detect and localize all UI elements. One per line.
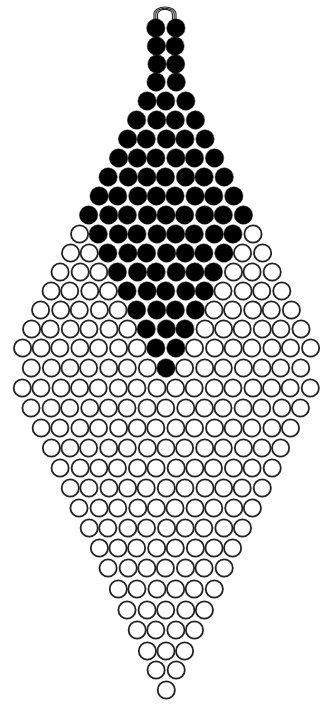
filled-bead — [166, 301, 184, 319]
open-bead — [167, 580, 184, 597]
filled-bead — [185, 149, 203, 167]
open-bead — [147, 621, 164, 638]
open-bead — [100, 282, 117, 299]
filled-bead — [147, 37, 165, 55]
open-bead — [302, 379, 319, 396]
open-bead — [168, 661, 185, 678]
open-bead — [80, 479, 97, 496]
open-bead — [61, 399, 78, 416]
open-bead — [129, 499, 146, 516]
open-bead — [264, 263, 281, 280]
open-bead — [282, 379, 299, 396]
open-bead — [148, 580, 165, 597]
filled-bead — [157, 282, 175, 300]
filled-bead — [175, 206, 193, 224]
open-bead — [292, 359, 309, 376]
open-bead — [128, 580, 145, 597]
open-bead — [43, 282, 60, 299]
open-bead — [234, 320, 251, 337]
open-bead — [234, 519, 251, 536]
open-bead — [23, 320, 40, 337]
open-bead — [43, 399, 60, 416]
open-bead — [215, 439, 232, 456]
open-bead — [206, 580, 223, 597]
open-bead — [109, 459, 126, 476]
open-bead — [148, 539, 165, 556]
filled-bead — [109, 187, 127, 205]
filled-bead — [225, 187, 243, 205]
open-bead — [100, 559, 117, 576]
open-bead — [196, 601, 213, 618]
filled-bead — [195, 282, 213, 300]
open-bead — [254, 320, 271, 337]
filled-bead — [205, 187, 223, 205]
open-bead — [51, 419, 68, 436]
bead-grid — [14, 19, 320, 699]
filled-bead — [138, 282, 156, 300]
filled-bead — [128, 225, 146, 243]
open-bead — [51, 339, 68, 356]
open-bead — [205, 499, 222, 516]
open-bead — [158, 681, 175, 698]
open-bead — [70, 499, 87, 516]
filled-bead — [129, 187, 147, 205]
open-bead — [167, 419, 184, 436]
open-bead — [100, 479, 117, 496]
open-bead — [282, 339, 299, 356]
filled-bead — [215, 168, 233, 186]
filled-bead — [147, 187, 165, 205]
open-bead — [90, 419, 107, 436]
filled-bead — [128, 263, 146, 281]
open-bead — [167, 539, 184, 556]
filled-bead — [176, 168, 194, 186]
open-bead — [187, 499, 204, 516]
filled-bead — [177, 282, 195, 300]
filled-bead — [137, 244, 155, 262]
filled-bead — [176, 130, 194, 148]
open-bead — [292, 399, 309, 416]
filled-bead — [79, 206, 97, 224]
open-bead — [225, 499, 242, 516]
open-bead — [100, 399, 117, 416]
open-bead — [225, 459, 242, 476]
open-bead — [90, 263, 107, 280]
open-bead — [224, 379, 241, 396]
open-bead — [176, 439, 193, 456]
open-bead — [264, 459, 281, 476]
open-bead — [177, 601, 194, 618]
filled-bead — [147, 73, 165, 91]
open-bead — [72, 459, 89, 476]
filled-bead — [186, 301, 204, 319]
open-bead — [91, 499, 108, 516]
open-bead — [215, 519, 232, 536]
filled-bead — [166, 187, 184, 205]
open-bead — [62, 320, 79, 337]
open-bead — [110, 580, 127, 597]
open-bead — [157, 439, 174, 456]
open-bead — [244, 379, 261, 396]
filled-bead — [147, 149, 165, 167]
open-bead — [235, 399, 252, 416]
open-bead — [215, 320, 232, 337]
open-bead — [61, 439, 78, 456]
filled-bead — [138, 92, 156, 110]
bead-pattern-diagram — [0, 0, 331, 718]
open-bead — [90, 459, 107, 476]
filled-bead — [138, 168, 156, 186]
open-bead — [157, 642, 174, 659]
open-bead — [119, 439, 136, 456]
open-bead — [148, 499, 165, 516]
open-bead — [139, 439, 156, 456]
open-bead — [235, 439, 252, 456]
filled-bead — [108, 263, 126, 281]
open-bead — [80, 439, 97, 456]
filled-bead — [128, 149, 146, 167]
open-bead — [61, 282, 78, 299]
open-bead — [253, 439, 270, 456]
filled-bead — [186, 187, 204, 205]
open-bead — [224, 301, 241, 318]
open-bead — [244, 499, 261, 516]
open-bead — [166, 499, 183, 516]
filled-bead — [148, 111, 166, 129]
open-bead — [196, 399, 213, 416]
